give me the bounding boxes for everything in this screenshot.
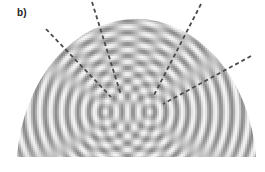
panel-label: b) bbox=[17, 7, 27, 18]
interference-figure bbox=[0, 0, 265, 172]
interference-pattern bbox=[15, 0, 259, 160]
